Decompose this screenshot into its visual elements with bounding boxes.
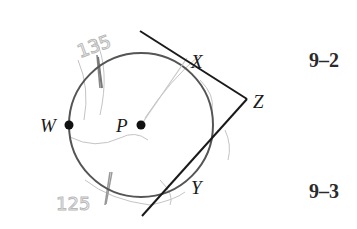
label-z: Z [253, 91, 264, 112]
label-p: P [115, 115, 128, 136]
label-y: Y [191, 177, 204, 198]
section-label-9-3: 9–3 [309, 180, 339, 202]
tangent-circle-diagram: 135 125 W P X Z Y 9–2 9–3 [0, 0, 357, 229]
point-w [65, 121, 74, 130]
pencil-radius-px [141, 58, 187, 125]
pencil-note-125: 125 [56, 193, 90, 214]
point-p [137, 121, 146, 130]
label-x: X [190, 51, 204, 72]
tangent-line-zy [142, 99, 247, 216]
section-label-9-2: 9–2 [309, 49, 339, 71]
pencil-note-135: 135 [74, 30, 113, 61]
label-w: W [40, 115, 58, 136]
